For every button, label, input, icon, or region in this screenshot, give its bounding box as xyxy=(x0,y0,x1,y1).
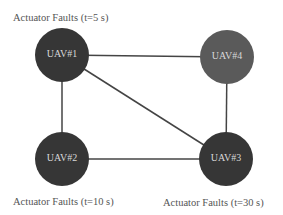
network-diagram xyxy=(0,0,283,215)
node-label-uav3: UAV#3 xyxy=(199,152,253,163)
fault-label-uav1: Actuator Faults (t=5 s) xyxy=(13,12,108,23)
node-label-uav1: UAV#1 xyxy=(35,48,89,59)
node-label-uav2: UAV#2 xyxy=(35,152,89,163)
fault-label-uav3: Actuator Faults (t=30 s) xyxy=(163,197,264,208)
edge-uav1-uav3 xyxy=(62,55,226,159)
fault-label-uav2: Actuator Faults (t=10 s) xyxy=(13,196,114,207)
node-label-uav4: UAV#4 xyxy=(200,50,254,61)
